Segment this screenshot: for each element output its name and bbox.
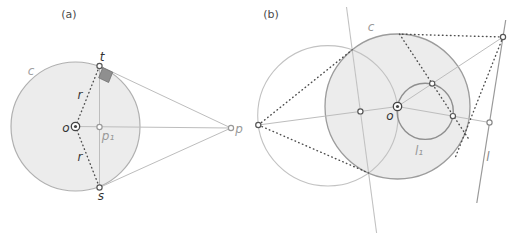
label-c-b: c: [368, 20, 375, 34]
label-p: p: [234, 122, 243, 136]
label-caption-a: (a): [61, 8, 76, 21]
label-s: s: [98, 189, 104, 203]
geometry-figure: (a)(b)crrotsp₁pcol₁l: [0, 0, 514, 250]
point-pole-left: [256, 122, 261, 127]
point-p: [228, 125, 233, 130]
diagram-canvas: (a)(b)crrotsp₁pcol₁l: [0, 0, 514, 250]
center-o-b-dot: [396, 105, 399, 108]
point-t: [97, 63, 102, 68]
point-inverse-foot: [450, 114, 455, 119]
point-inverse-top: [430, 81, 435, 86]
point-top-on-l: [500, 34, 505, 39]
point-inverse-pole: [358, 109, 363, 114]
label-p1: p₁: [101, 129, 115, 143]
point-foot-on-l: [487, 120, 492, 125]
label-c-a: c: [28, 64, 35, 78]
label-l1: l₁: [415, 144, 423, 158]
center-o-a-dot: [74, 125, 77, 128]
label-caption-b: (b): [263, 8, 279, 21]
label-o-b: o: [386, 109, 393, 123]
label-o-a: o: [62, 121, 69, 135]
